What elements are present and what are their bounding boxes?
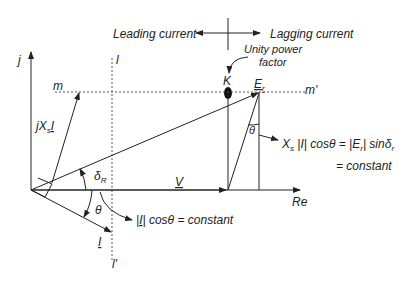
delta-label: δR xyxy=(94,169,107,185)
re-axis-label: Re xyxy=(292,195,308,209)
power-const-pointer xyxy=(259,135,278,140)
lagging-current-label: Lagging current xyxy=(270,27,354,41)
current-const-pointer xyxy=(100,192,132,220)
i-label: I xyxy=(98,235,102,249)
current-const-equation: |I| cosθ = constant xyxy=(136,213,234,227)
er-label: Er xyxy=(254,77,265,93)
unity-pf-label-2: factor xyxy=(259,56,288,68)
leading-current-label: Leading current xyxy=(113,27,197,41)
right-angle-marker xyxy=(31,178,52,197)
theta-er-label: θ xyxy=(249,124,255,136)
unity-pf-pointer xyxy=(229,57,248,73)
locus-m-prime-label: m' xyxy=(305,83,318,97)
theta-label: θ xyxy=(95,203,102,217)
j-axis-label: j xyxy=(16,53,21,67)
v-label: V xyxy=(175,175,184,189)
delta-arc xyxy=(80,169,86,190)
power-const-equation-1: Xs |I| cosθ = |Er| sinδr xyxy=(281,137,394,153)
phasor-diagram: j Re Leading current Lagging current Uni… xyxy=(0,0,414,282)
unity-pf-label-1: Unity power xyxy=(244,43,303,55)
er-phasor xyxy=(31,93,258,190)
locus-m-label: m xyxy=(53,79,63,93)
jxsi-label: jXsI xyxy=(34,119,55,135)
point-k-label: K xyxy=(223,74,232,88)
locus-l-label: l xyxy=(116,53,119,67)
power-const-equation-2: = constant xyxy=(336,159,392,173)
theta-arc xyxy=(84,190,92,217)
xi-drop xyxy=(228,93,259,190)
jxsi-phasor xyxy=(52,93,79,183)
locus-l-prime-label: l' xyxy=(112,257,118,271)
